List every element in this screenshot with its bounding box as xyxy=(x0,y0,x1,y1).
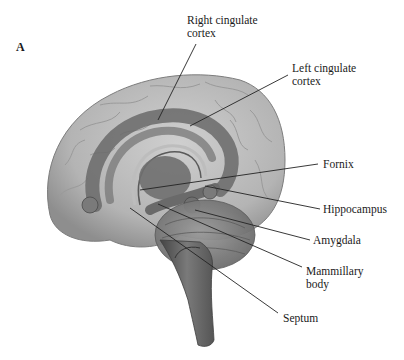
label-left-cingulate-cortex: Left cingulate cortex xyxy=(292,62,356,88)
label-fornix: Fornix xyxy=(323,158,354,171)
label-right-cingulate-cortex: Right cingulate cortex xyxy=(187,14,258,40)
label-septum: Septum xyxy=(283,312,318,325)
panel-letter: A xyxy=(16,40,25,55)
brain-illustration xyxy=(0,0,404,360)
label-amygdala: Amygdala xyxy=(313,234,361,247)
label-mammillary-body: Mammillary body xyxy=(306,265,364,291)
brain-limbic-diagram: A Right cingulate cortex Left cingulate … xyxy=(0,0,404,360)
label-hippocampus: Hippocampus xyxy=(323,203,387,216)
